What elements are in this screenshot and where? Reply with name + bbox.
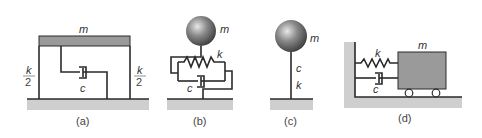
svg-text:k: k: [137, 64, 143, 76]
right-spring-fraction: k 2: [134, 64, 146, 88]
panel-a: m c k 2 k 2 (a): [23, 23, 149, 127]
left-spring-fraction: k 2: [23, 64, 35, 88]
damper: [178, 76, 225, 87]
floor: [344, 97, 462, 108]
spring: [355, 59, 398, 67]
damper-label: c: [80, 82, 86, 94]
panel-c: m c k (c): [270, 20, 319, 127]
svg-text:2: 2: [136, 76, 142, 88]
spring-label: k: [375, 47, 381, 59]
mass-label: m: [418, 39, 427, 51]
mass-label: m: [310, 32, 319, 44]
mass-ball: [186, 16, 216, 46]
wheel-left: [405, 89, 413, 97]
svg-text:k: k: [26, 64, 32, 76]
mass-bar: [39, 36, 130, 46]
ground: [167, 99, 233, 110]
lower-link: [203, 71, 232, 99]
panel-d: m k c (d): [344, 39, 462, 124]
spring-label: k: [217, 48, 223, 60]
caption-a: (a): [76, 115, 89, 127]
mass-ball: [275, 20, 307, 52]
mass-label: m: [79, 23, 88, 35]
caption-c: (c): [284, 115, 297, 127]
damper-label: c: [373, 83, 379, 95]
damper-label: c: [296, 62, 302, 74]
wheel-right: [432, 89, 440, 97]
damper-label: c: [187, 82, 193, 94]
ground: [270, 99, 313, 110]
panel-b: m k c (b): [167, 16, 233, 127]
caption-b: (b): [193, 115, 206, 127]
spring-label: k: [296, 79, 302, 91]
caption-d: (d): [398, 112, 411, 124]
ground: [27, 99, 149, 110]
vibration-models-diagram: m c k 2 k 2 (a) m k c (b): [0, 0, 482, 138]
mass-label: m: [220, 23, 229, 35]
svg-text:2: 2: [25, 76, 31, 88]
mass-block: [398, 52, 446, 89]
